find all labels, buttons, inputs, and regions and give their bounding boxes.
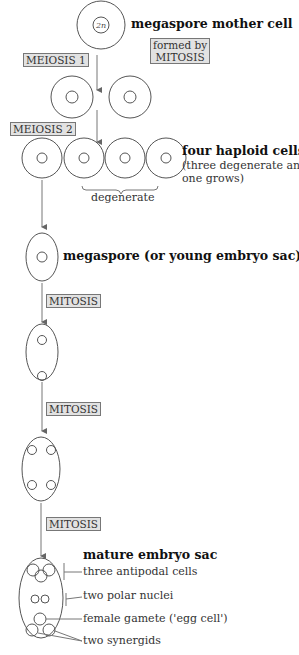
egg-cell-label: female gamete ('egg cell') — [83, 613, 228, 625]
mature-title: mature embryo sac — [83, 549, 217, 561]
degenerate-label: degenerate — [91, 192, 154, 204]
antipodal-label: three antipodal cells — [83, 566, 198, 578]
mitosis-box-3: MITOSIS — [46, 517, 101, 531]
four-cells-title: four haploid cells — [182, 145, 299, 157]
mother-cell-label: megaspore mother cell — [131, 18, 292, 30]
megaspore-label: megaspore (or young embryo sac) — [63, 250, 299, 262]
svg-text:2n: 2n — [95, 21, 106, 30]
formed-by-box: formed by MITOSIS — [150, 38, 210, 64]
four-cells-line2: one grows) — [182, 173, 244, 185]
mitosis-box-2: MITOSIS — [46, 402, 101, 416]
meiosis1-box: MEIOSIS 1 — [23, 53, 89, 67]
meiosis2-box: MEIOSIS 2 — [10, 122, 76, 136]
polar-nuclei-label: two polar nuclei — [83, 590, 173, 602]
formed-by-line2: MITOSIS — [153, 51, 207, 63]
synergids-label: two synergids — [83, 635, 161, 647]
mitosis-box-1: MITOSIS — [46, 294, 101, 308]
formed-by-line1: formed by — [153, 39, 207, 51]
four-cells-line1: (three degenerate and — [182, 160, 299, 172]
